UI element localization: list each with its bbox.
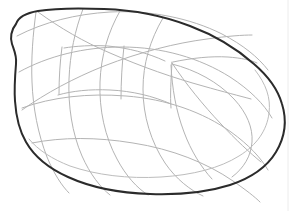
canvas-background — [0, 0, 294, 211]
drawing-canvas — [0, 0, 294, 211]
line-drawing-svg — [0, 0, 294, 211]
